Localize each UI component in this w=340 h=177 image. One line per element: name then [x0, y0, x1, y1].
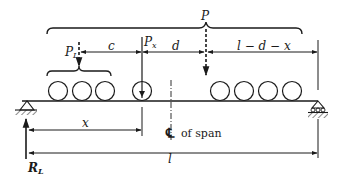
reaction-label: RL [27, 161, 44, 176]
left-wheel-group [49, 82, 115, 101]
dim-span-label: l [168, 152, 172, 166]
wheel-load-label: Px [143, 35, 157, 50]
right-wheel-group [211, 82, 302, 101]
roller-support [308, 101, 328, 118]
dim-remaining-label: l − d − x [237, 39, 291, 53]
pin-support [15, 101, 37, 115]
resultant-brace [47, 22, 302, 34]
centerline-label: of span [181, 127, 222, 140]
wheel [96, 82, 115, 101]
wheel [259, 82, 278, 101]
dim-d-label: d [172, 39, 180, 53]
wheel [235, 82, 254, 101]
dim-c-label: c [108, 39, 115, 53]
wheel-group-brace [47, 66, 111, 76]
lead-load-label: PL [64, 45, 78, 60]
wheel [73, 82, 92, 101]
wheel [49, 82, 68, 101]
resultant-load-label: P [200, 9, 210, 23]
wheel [283, 82, 302, 101]
centerline-symbol: ℄ [165, 125, 175, 140]
dim-x-label: x [82, 116, 89, 130]
wheel [211, 82, 230, 101]
beam-diagram: P PL c d l − d − x Px ℄ of span [0, 0, 340, 177]
